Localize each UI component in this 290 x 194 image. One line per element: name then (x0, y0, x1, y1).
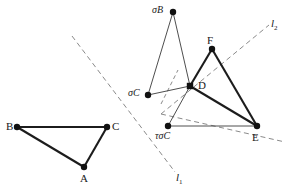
line-label-l1: l1 (176, 172, 183, 186)
line-label-subscript-l1: 1 (179, 178, 183, 186)
point-label-sC: σC (128, 88, 140, 98)
line-label-l2: l2 (271, 18, 278, 32)
vertex-C (104, 124, 110, 130)
segment-D-E (190, 86, 257, 126)
point-label-tsC: τσC (155, 131, 170, 141)
vertex-D (187, 83, 193, 89)
segment-sC-D (148, 86, 190, 95)
vertex-B (14, 124, 20, 130)
point-label-E: E (252, 132, 259, 143)
geometry-figure: BCAσBFσCDτσCEl1l2 (0, 0, 290, 194)
dashed-lines-group (72, 25, 285, 172)
vertex-sB (170, 9, 176, 15)
dashed-line-l2 (161, 114, 285, 142)
point-label-sB: σB (152, 5, 163, 15)
dashed-segment-through-D (161, 70, 178, 104)
segment-B-A (17, 127, 84, 167)
segment-A-C (84, 127, 107, 167)
vertex-A (81, 164, 87, 170)
point-label-D: D (198, 80, 206, 91)
segment-sB-sC (148, 12, 173, 95)
figure-canvas (0, 0, 290, 194)
vertex-tsC (165, 123, 171, 129)
point-label-A: A (80, 173, 88, 184)
point-label-F: F (207, 35, 213, 46)
vertex-sC (145, 92, 151, 98)
line-label-subscript-l2: 2 (274, 24, 278, 32)
segment-F-E (212, 49, 257, 126)
vertex-E (254, 123, 260, 129)
point-label-B: B (6, 121, 13, 132)
segment-sB-D (173, 12, 190, 86)
vertex-F (209, 46, 215, 52)
point-label-C: C (112, 121, 119, 132)
